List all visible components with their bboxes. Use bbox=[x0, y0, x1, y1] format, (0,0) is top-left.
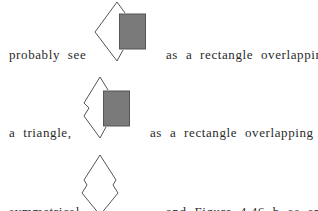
figure-triangle-behind-rectangle bbox=[95, 2, 146, 61]
figure-symmetrical-zigzag-shape bbox=[82, 155, 118, 211]
figure-zigzag-shape-behind-rectangle bbox=[84, 77, 130, 138]
figures-canvas bbox=[0, 0, 318, 211]
